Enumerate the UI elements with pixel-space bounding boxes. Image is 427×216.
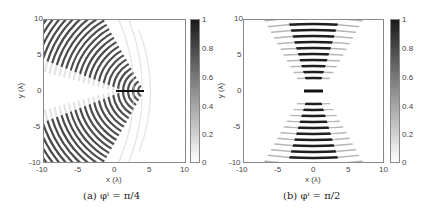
cbtick-a: 0.6: [202, 74, 213, 82]
y-axis-label-b: y (λ): [216, 83, 225, 99]
x-axis-label-b: x (λ): [305, 175, 321, 184]
fringe-pattern-a: [44, 20, 185, 162]
ytick-b: 0: [237, 87, 241, 95]
cbtick-b: 0.4: [402, 103, 413, 111]
cbtick-a: 0.4: [202, 103, 213, 111]
cbtick-a: 0.2: [202, 131, 213, 139]
cbtick-a: 0.8: [202, 45, 213, 53]
cbtick-b: 0.2: [402, 131, 413, 139]
xtick-b: 0: [311, 166, 315, 174]
caption-a: (a) φⁱ = π/4: [83, 190, 140, 201]
xtick-a: -10: [36, 166, 48, 174]
xtick-a: 0: [112, 166, 116, 174]
x-axis-label-a: x (λ): [106, 175, 122, 184]
cbtick-a: 0: [202, 159, 206, 167]
cbtick-b: 1: [402, 16, 406, 24]
ytick-a: -5: [33, 123, 40, 131]
ytick-a: 5: [37, 51, 41, 59]
xtick-a: -5: [74, 166, 81, 174]
heatmap-plot-b: [243, 19, 384, 163]
y-axis-label-a: y (λ): [16, 83, 25, 99]
ytick-a: 0: [37, 87, 41, 95]
xtick-a: 10: [180, 166, 189, 174]
heatmap-plot-a: [43, 19, 186, 163]
ytick-b: 5: [237, 51, 241, 59]
cbtick-b: 0.8: [402, 45, 413, 53]
ytick-b: 10: [234, 15, 243, 23]
xtick-b: 10: [379, 166, 388, 174]
ytick-b: -5: [233, 123, 240, 131]
cbtick-a: 1: [202, 16, 206, 24]
cbtick-b: 0: [402, 159, 406, 167]
xtick-b: -10: [236, 166, 248, 174]
panel-a: 10 5 0 -5 -10 -10 -5 0 5 10 1 0.8 0.6 0.…: [0, 0, 213, 216]
colorbar-b: [390, 19, 400, 163]
xtick-b: -5: [274, 166, 281, 174]
cbtick-b: 0.6: [402, 74, 413, 82]
caption-b: (b) φⁱ = π/2: [283, 190, 340, 201]
panel-b: 10 5 0 -5 -10 -10 -5 0 5 10 1 0.8 0.6 0.…: [213, 0, 426, 216]
ytick-a: 10: [34, 15, 43, 23]
fringe-pattern-b: [244, 20, 383, 162]
colorbar-a: [190, 19, 200, 163]
xtick-a: 5: [147, 166, 151, 174]
xtick-b: 5: [346, 166, 350, 174]
